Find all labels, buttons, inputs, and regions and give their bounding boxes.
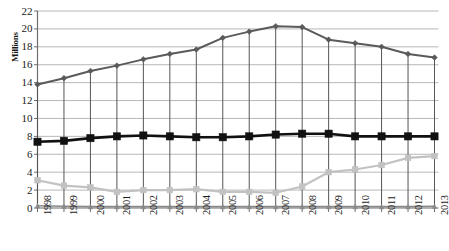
data-point-marker: [219, 134, 226, 141]
data-point-marker: [220, 189, 226, 195]
y-tick-label: 18: [11, 41, 33, 52]
x-tick-label: 2008: [307, 195, 318, 215]
data-point-marker: [299, 130, 306, 137]
x-tick-label: 2006: [254, 195, 265, 215]
data-point-marker: [326, 169, 332, 175]
x-tick-label: 2012: [413, 195, 424, 215]
data-point-marker: [35, 177, 41, 183]
data-point-marker: [193, 134, 200, 141]
data-point-marker: [88, 185, 94, 191]
x-tick-label: 2002: [148, 195, 159, 215]
data-point-marker: [378, 133, 385, 140]
data-point-marker: [352, 133, 359, 140]
data-point-marker: [432, 153, 438, 159]
data-point-marker: [167, 187, 173, 193]
x-tick-label: 2013: [439, 195, 449, 215]
x-tick-label: 2009: [333, 195, 344, 215]
x-tick-label: 2000: [95, 195, 106, 215]
data-point-marker: [87, 135, 94, 142]
data-point-marker: [114, 189, 120, 195]
x-tick-label: 2010: [360, 195, 371, 215]
y-tick-label: 2: [11, 185, 33, 196]
y-tick-label: 0: [11, 203, 33, 214]
x-tick-label: 2011: [386, 196, 397, 215]
data-point-marker: [60, 137, 67, 144]
y-tick-label: 8: [11, 131, 33, 142]
data-point-marker: [34, 138, 41, 145]
x-tick-label: 1998: [42, 195, 53, 215]
data-point-marker: [141, 187, 147, 193]
data-point-marker: [273, 190, 279, 196]
data-point-marker: [404, 133, 411, 140]
x-tick-label: 2005: [227, 195, 238, 215]
data-point-marker: [61, 183, 67, 189]
x-tick-label: 2001: [121, 195, 132, 215]
data-point-marker: [194, 186, 200, 192]
data-point-marker: [299, 184, 305, 190]
data-point-marker: [405, 155, 411, 161]
y-tick-label: 4: [11, 167, 33, 178]
x-tick-label: 1999: [68, 195, 79, 215]
x-tick-label: 2007: [280, 195, 291, 215]
data-point-marker: [272, 131, 279, 138]
plot-background: [38, 11, 435, 208]
data-point-marker: [431, 133, 438, 140]
data-point-marker: [325, 130, 332, 137]
y-tick-label: 10: [11, 113, 33, 124]
data-point-marker: [246, 133, 253, 140]
y-tick-label: 6: [11, 149, 33, 160]
data-point-marker: [379, 162, 385, 168]
y-tick-label: 22: [11, 6, 33, 17]
y-tick-label: 12: [11, 95, 33, 106]
x-tick-label: 2004: [201, 195, 212, 215]
data-point-marker: [352, 167, 358, 173]
chart-container: Millions 0246810121416182022 19981999200…: [0, 0, 449, 251]
data-point-marker: [113, 133, 120, 140]
data-point-marker: [166, 133, 173, 140]
y-tick-label: 20: [11, 23, 33, 34]
y-tick-label: 16: [11, 59, 33, 70]
x-tick-label: 2003: [174, 195, 185, 215]
y-tick-label: 14: [11, 77, 33, 88]
data-point-marker: [246, 189, 252, 195]
data-point-marker: [140, 132, 147, 139]
